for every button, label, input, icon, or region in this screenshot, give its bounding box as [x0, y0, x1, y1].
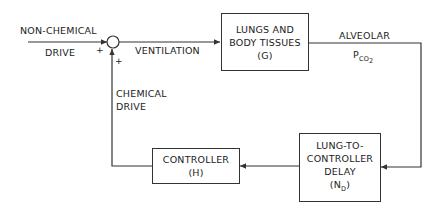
non-chemical-label: NON-CHEMICAL — [20, 25, 97, 37]
ventilation-label: VENTILATION — [135, 45, 200, 57]
non-chemical-label-line2: DRIVE — [45, 47, 75, 59]
lung-to-controller-delay-block: LUNG-TO- CONTROLLER DELAY (ND) — [299, 133, 381, 202]
summing-junction — [107, 36, 119, 48]
alveolar-label: ALVEOLAR — [339, 30, 390, 42]
lungs-body-tissues-block: LUNGS AND BODY TISSUES (G) — [221, 13, 309, 71]
chemical-drive-label-line2: DRIVE — [116, 101, 146, 113]
plus-sign-bottom: + — [115, 55, 123, 67]
controller-block: CONTROLLER (H) — [152, 148, 240, 184]
plus-sign-left: + — [96, 44, 104, 56]
pco2-label: PCO2 — [353, 49, 373, 67]
chemical-drive-label: CHEMICAL — [116, 88, 167, 100]
